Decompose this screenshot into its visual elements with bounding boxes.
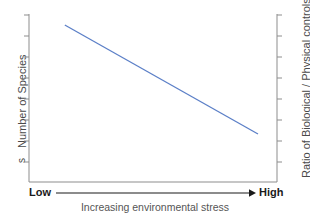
axis-direction-strip: Low High xyxy=(0,185,310,202)
x-axis-caption: Increasing environmental stress xyxy=(0,201,310,213)
axis-high-label: High xyxy=(259,186,283,198)
figure-container: Number of Species s Ratio of Biological … xyxy=(0,0,310,220)
data-trend-line xyxy=(65,25,258,134)
right-axis-ticks xyxy=(277,15,282,162)
axis-low-label: Low xyxy=(29,186,51,198)
left-axis-ticks xyxy=(24,15,29,162)
